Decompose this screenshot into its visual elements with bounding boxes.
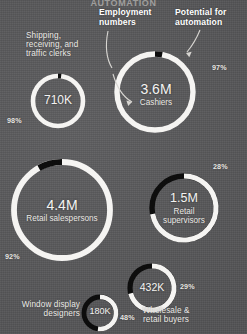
label-clerks-line2: receiving, and [26, 40, 104, 49]
infographic-canvas: AUTOMATION [0, 0, 247, 334]
donut-salespersons-automation-arc [39, 162, 62, 168]
pct-cashiers: 97% [212, 64, 227, 72]
value-salespersons-number: 4.4M [17, 198, 107, 213]
annotation-potential-automation: Potential for automation [175, 8, 245, 27]
value-supervisors: 1.5M Retail supervisors [157, 192, 211, 225]
annotation-employment-line2: numbers [99, 18, 165, 28]
value-designers: 180K [83, 307, 117, 317]
label-designers-line1: Window display [8, 300, 80, 309]
value-clerks: 710K [33, 94, 83, 107]
pct-buyers: 29% [180, 283, 195, 291]
pct-supervisors: 28% [213, 163, 228, 171]
label-cashiers: Cashiers [130, 98, 182, 107]
value-buyers-number: 432K [131, 282, 173, 294]
label-designers-line2: designers [8, 309, 80, 318]
pct-designers: 48% [120, 314, 135, 322]
pct-clerks: 98% [7, 117, 22, 125]
label-salespersons: Retail salespersons [17, 214, 107, 223]
value-cashiers: 3.6M Cashiers [130, 82, 182, 107]
donut-cashiers-automation-arc [155, 54, 162, 55]
label-supervisors-line2: supervisors [157, 216, 211, 225]
annotation-automation-line2: automation [175, 18, 245, 28]
label-buyers-line1: Wholesale & [127, 306, 205, 315]
value-designers-number: 180K [83, 307, 117, 317]
label-buyers: Wholesale & retail buyers [127, 306, 205, 324]
value-buyers: 432K [131, 282, 173, 294]
label-buyers-line2: retail buyers [127, 315, 205, 324]
label-supervisors-line1: Retail [157, 207, 211, 216]
value-salespersons: 4.4M Retail salespersons [17, 198, 107, 223]
automation-arrowhead-icon [186, 52, 192, 57]
value-cashiers-number: 3.6M [130, 82, 182, 97]
value-supervisors-number: 1.5M [157, 192, 211, 206]
pct-salespersons: 92% [5, 253, 20, 261]
label-clerks-line3: traffic clerks [26, 49, 104, 58]
employment-leader-upper [106, 31, 112, 68]
annotation-employment-numbers: Employment numbers [99, 8, 165, 27]
automation-leader [187, 30, 200, 52]
value-clerks-number: 710K [33, 94, 83, 107]
label-clerks-line1: Shipping, [26, 31, 104, 40]
label-designers: Window display designers [8, 300, 80, 318]
label-clerks: Shipping, receiving, and traffic clerks [26, 31, 104, 59]
